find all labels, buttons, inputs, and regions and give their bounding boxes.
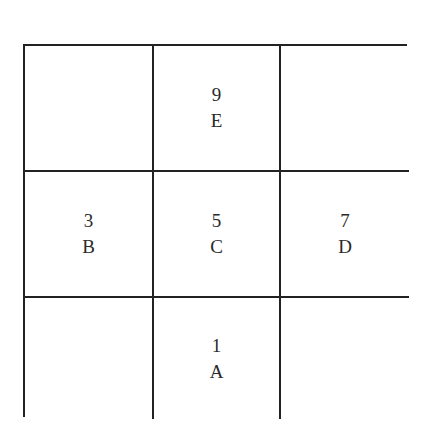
cell-center: 5 C bbox=[154, 172, 281, 298]
cell-letter: D bbox=[338, 234, 352, 260]
cell-number: 3 bbox=[84, 208, 94, 234]
cell-bottom-center: 1 A bbox=[154, 298, 281, 419]
cell-letter: C bbox=[210, 234, 223, 260]
cell-top-left bbox=[25, 46, 154, 172]
cell-letter: E bbox=[211, 108, 223, 134]
cell-letter: A bbox=[210, 359, 224, 385]
cell-bottom-right bbox=[281, 298, 409, 419]
cell-number: 9 bbox=[212, 82, 222, 108]
cell-number: 1 bbox=[212, 333, 222, 359]
cell-top-right bbox=[281, 46, 409, 172]
cell-number: 5 bbox=[212, 208, 222, 234]
cell-middle-left: 3 B bbox=[25, 172, 154, 298]
three-by-three-grid: 9 E 3 B 5 C 7 D 1 A bbox=[23, 44, 407, 417]
cell-number: 7 bbox=[340, 208, 350, 234]
cell-middle-right: 7 D bbox=[281, 172, 409, 298]
cell-bottom-left bbox=[25, 298, 154, 419]
cell-top-center: 9 E bbox=[154, 46, 281, 172]
cell-letter: B bbox=[82, 234, 95, 260]
